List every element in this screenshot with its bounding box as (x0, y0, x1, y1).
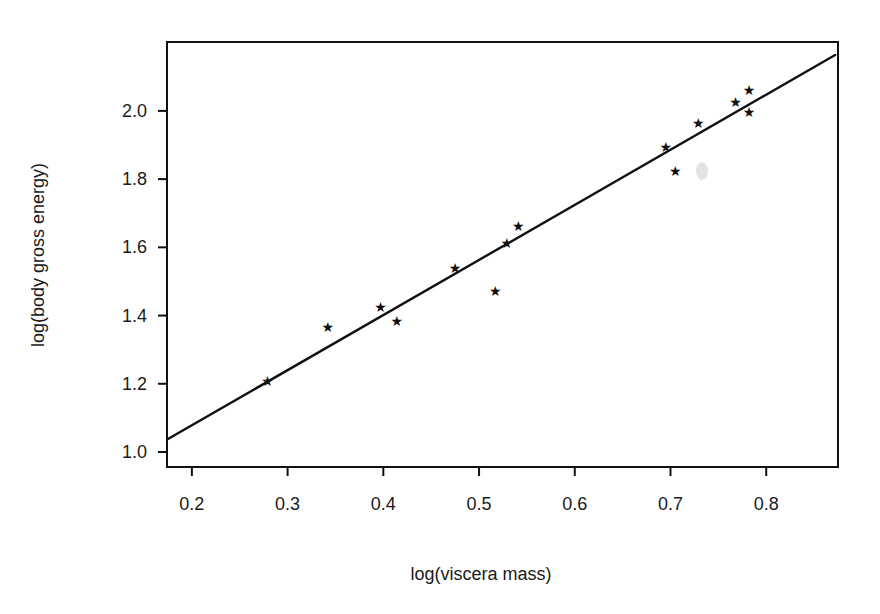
y-tick-label: 1.0 (122, 442, 147, 462)
x-tick-label: 0.8 (754, 494, 779, 514)
y-tick-label: 1.6 (122, 237, 147, 257)
x-axis: 0.20.30.40.50.60.70.8 (179, 467, 778, 514)
star-marker-icon: ★ (743, 82, 756, 98)
star-marker-icon: ★ (390, 313, 403, 329)
x-axis-title: log(viscera mass) (410, 564, 551, 584)
star-marker-icon: ★ (489, 283, 502, 299)
star-marker-icon: ★ (743, 104, 756, 120)
star-marker-icon: ★ (449, 260, 462, 276)
x-tick-label: 0.7 (658, 494, 683, 514)
y-axis: 1.01.21.41.61.82.0 (122, 101, 167, 462)
star-marker-icon: ★ (512, 218, 525, 234)
star-marker-icon: ★ (261, 373, 274, 389)
star-marker-icon: ★ (374, 299, 387, 315)
star-marker-icon: ★ (692, 115, 705, 131)
scan-smudge (696, 162, 708, 180)
star-marker-icon: ★ (729, 94, 742, 110)
x-tick-label: 0.5 (467, 494, 492, 514)
star-marker-icon: ★ (669, 163, 682, 179)
star-marker-icon: ★ (501, 235, 514, 251)
y-axis-title: log(body gross energy) (28, 163, 48, 347)
y-tick-label: 1.4 (122, 306, 147, 326)
x-tick-label: 0.6 (562, 494, 587, 514)
y-tick-label: 1.8 (122, 169, 147, 189)
y-tick-label: 1.2 (122, 374, 147, 394)
star-marker-icon: ★ (659, 139, 672, 155)
star-marker-icon: ★ (322, 319, 335, 335)
x-tick-label: 0.2 (179, 494, 204, 514)
y-tick-label: 2.0 (122, 101, 147, 121)
scatter-chart: 0.20.30.40.50.60.70.8 1.01.21.41.61.82.0… (0, 0, 880, 614)
x-tick-label: 0.3 (275, 494, 300, 514)
x-tick-label: 0.4 (371, 494, 396, 514)
